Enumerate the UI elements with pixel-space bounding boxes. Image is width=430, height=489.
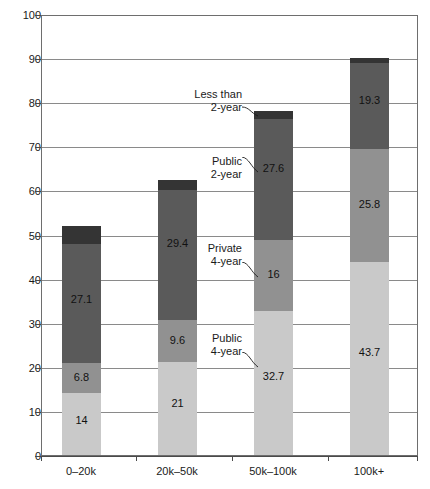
annotation-line-2: 2-year bbox=[150, 168, 242, 181]
x-tick-mark-4 bbox=[417, 457, 418, 461]
annotation-line-1: Private bbox=[150, 242, 242, 255]
bar-segment-public-2year: 19.3 bbox=[350, 63, 389, 148]
bar-segment-private-4year: 25.8 bbox=[350, 149, 389, 263]
x-tick-label-50k-100k: 50k–100k bbox=[226, 465, 320, 477]
bar-segment-label: 19.3 bbox=[350, 95, 389, 106]
bar-segment-label: 27.1 bbox=[62, 294, 101, 305]
bar-segment-private-4year: 6.8 bbox=[62, 363, 101, 393]
y-axis: 100 90 80 70 60 50 40 30 20 10 0 bbox=[0, 0, 41, 489]
bar-segment-label: 6.8 bbox=[62, 372, 101, 383]
x-tick-mark-1 bbox=[136, 457, 137, 461]
bar-segment-label: 32.7 bbox=[254, 371, 293, 382]
bar-group-20k-50k: 21 9.6 29.4 bbox=[158, 180, 197, 455]
x-tick-label-0-20k: 0–20k bbox=[34, 465, 128, 477]
annotation-line-2: 4-year bbox=[150, 255, 242, 268]
bar-group-50k-100k: 32.7 16 27.6 bbox=[254, 111, 293, 455]
x-tick-mark-0 bbox=[41, 457, 42, 461]
x-axis: 0–20k 20k–50k 50k–100k 100k+ bbox=[0, 456, 430, 489]
plot-area: 14 6.8 27.1 21 9.6 29.4 bbox=[41, 15, 418, 456]
bar-segment-public-4year: 14 bbox=[62, 393, 101, 455]
bar-segment-label: 43.7 bbox=[350, 347, 389, 358]
x-tick-label-20k-50k: 20k–50k bbox=[130, 465, 224, 477]
bar-segment-label: 21 bbox=[158, 398, 197, 409]
x-tick-mark-3 bbox=[328, 457, 329, 461]
stacked-bar-chart: 100 90 80 70 60 50 40 30 20 10 0 bbox=[0, 0, 430, 489]
annotation-public-4-year: Public 4-year bbox=[150, 332, 242, 358]
annotation-private-4-year: Private 4-year bbox=[150, 242, 242, 268]
annotation-line-1: Public bbox=[150, 332, 242, 345]
bar-segment-label: 16 bbox=[254, 269, 293, 280]
bar-segment-label: 27.6 bbox=[254, 163, 293, 174]
bar-segment-public-4year: 43.7 bbox=[350, 262, 389, 455]
annotation-line-1: Public bbox=[150, 155, 242, 168]
annotation-line-2: 2-year bbox=[150, 101, 242, 114]
x-tick-mark-2 bbox=[232, 457, 233, 461]
bar-segment-private-4year: 16 bbox=[254, 240, 293, 311]
annotation-less-than-2-year: Less than 2-year bbox=[150, 88, 242, 114]
bar-segment-public-2year: 27.1 bbox=[62, 244, 101, 364]
x-tick-label-100k-plus: 100k+ bbox=[322, 465, 416, 477]
annotation-line-2: 4-year bbox=[150, 345, 242, 358]
bar-segment-less-than-2year bbox=[254, 111, 293, 119]
annotation-public-2-year: Public 2-year bbox=[150, 155, 242, 181]
bar-segment-public-2year: 27.6 bbox=[254, 119, 293, 241]
bar-group-0-20k: 14 6.8 27.1 bbox=[62, 226, 101, 455]
bar-segment-public-4year: 32.7 bbox=[254, 311, 293, 455]
bar-segment-label: 14 bbox=[62, 415, 101, 426]
annotation-line-1: Less than bbox=[150, 88, 242, 101]
bar-segment-public-4year: 21 bbox=[158, 362, 197, 455]
bar-group-100k-plus: 43.7 25.8 19.3 bbox=[350, 58, 389, 455]
bar-segment-label: 25.8 bbox=[350, 199, 389, 210]
bar-segment-less-than-2year bbox=[62, 226, 101, 244]
bar-segment-less-than-2year bbox=[158, 180, 197, 191]
x-axis-line bbox=[41, 456, 418, 457]
bar-segment-less-than-2year bbox=[350, 58, 389, 63]
